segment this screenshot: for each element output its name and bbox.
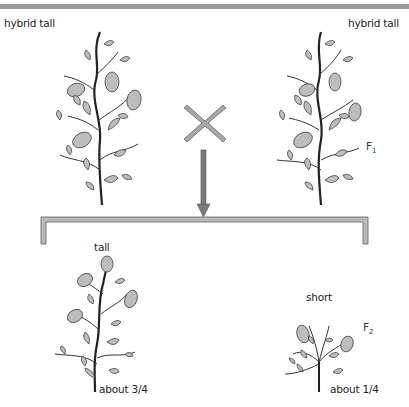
tall-plant-left-parent-icon (30, 20, 160, 210)
arrow-down-icon (196, 150, 212, 218)
header-divider (0, 4, 409, 9)
short-ratio-label: about 1/4 (330, 383, 379, 395)
short-offspring-label: short (306, 291, 332, 303)
offspring-bracket (40, 216, 370, 246)
tall-plant-offspring-icon (45, 254, 145, 394)
cross-icon (183, 103, 227, 143)
tall-plant-right-parent-icon (265, 20, 375, 210)
tall-offspring-label: tall (94, 241, 110, 253)
f1-generation-label: F1 (366, 140, 377, 155)
f2-generation-label: F2 (363, 321, 374, 336)
tall-ratio-label: about 3/4 (99, 383, 148, 395)
short-plant-offspring-icon (283, 318, 358, 393)
